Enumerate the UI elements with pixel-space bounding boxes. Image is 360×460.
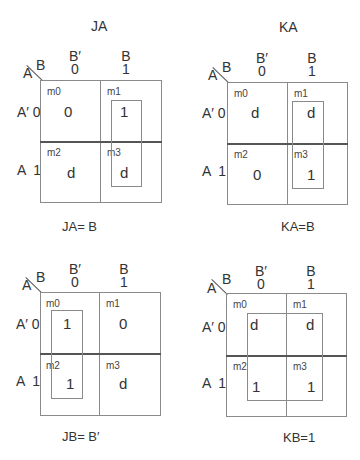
minterm-label: m1 <box>293 299 307 310</box>
col-header-0: B′ 0 <box>60 263 90 289</box>
cell-value: d <box>119 375 127 392</box>
row-header-0: A′ 0 <box>16 316 40 332</box>
col-var-label: B <box>36 57 45 73</box>
minterm-label: m1 <box>106 298 120 309</box>
row-header-0: A′ 0 <box>17 104 41 120</box>
col-header-0: B′ 0 <box>247 52 277 78</box>
row-header-0: A′ 0 <box>202 105 226 121</box>
cell-value: d <box>251 104 259 121</box>
minterm-label: m1 <box>107 86 121 97</box>
minterm-label: m3 <box>106 360 120 371</box>
minterm-label: m2 <box>233 361 247 372</box>
map-title: KA <box>279 19 298 35</box>
minterm-label: m2 <box>47 147 61 158</box>
col-var-label: B <box>222 271 231 287</box>
col-bit: 1 <box>296 278 326 291</box>
row-header-1: A 1 <box>17 162 41 178</box>
col-header-0: B′ 0 <box>246 265 276 291</box>
col-bit: 0 <box>60 63 90 76</box>
kmap-ja: JA B′ 0 B 1 A B A′ 0 A 1 m0 0 m1 1 m2 d … <box>0 0 180 230</box>
row-header-1: A 1 <box>202 163 226 179</box>
minterm-label: m1 <box>294 88 308 99</box>
cell-value: 0 <box>64 103 72 120</box>
col-bit: 1 <box>111 63 141 76</box>
col-header-1: B 1 <box>109 263 139 289</box>
col-bit: 0 <box>60 276 90 289</box>
row-header-1: A 1 <box>202 375 226 391</box>
row-divider <box>40 141 162 143</box>
col-header-0: B′ 0 <box>60 50 90 76</box>
row-header-0: A′ 0 <box>202 319 226 335</box>
col-bit: 0 <box>246 278 276 291</box>
minterm-label: m0 <box>47 86 61 97</box>
col-bit: 1 <box>297 65 327 78</box>
equation: JB= B′ <box>62 429 99 444</box>
kmap-kb: B′ 0 B 1 A B A′ 0 A 1 m0 d m1 d m2 1 m3 … <box>180 230 360 460</box>
row-divider <box>227 143 348 145</box>
minterm-label: m0 <box>46 298 60 309</box>
minterm-label: m2 <box>234 149 248 160</box>
kmap-ka: KA B′ 0 B 1 A B A′ 0 A 1 m0 d m1 d m2 0 … <box>180 0 360 230</box>
col-header-1: B 1 <box>111 50 141 76</box>
implicant-group <box>247 313 323 401</box>
implicant-group <box>292 101 324 189</box>
col-bit: 0 <box>247 65 277 78</box>
equation: KB=1 <box>283 430 315 445</box>
cell-value: 0 <box>253 166 261 183</box>
minterm-label: m0 <box>234 88 248 99</box>
row-header-1: A 1 <box>16 373 40 389</box>
col-var-label: B <box>36 269 45 285</box>
col-bit: 1 <box>109 276 139 289</box>
cell-value: 0 <box>119 315 127 332</box>
cell-value: d <box>67 164 75 181</box>
col-header-1: B 1 <box>297 52 327 78</box>
implicant-group <box>111 100 142 187</box>
implicant-group <box>51 310 83 399</box>
map-title: JA <box>91 18 107 34</box>
minterm-label: m0 <box>233 299 247 310</box>
col-header-1: B 1 <box>296 265 326 291</box>
kmap-jb: B′ 0 B 1 A B A′ 0 A 1 m0 1 m1 0 m2 1 m3 … <box>0 230 180 460</box>
col-var-label: B <box>222 59 231 75</box>
